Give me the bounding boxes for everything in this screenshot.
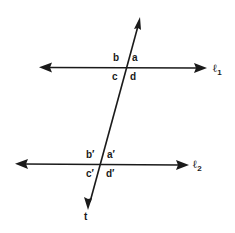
- transversal-t: [84, 17, 141, 210]
- angle-label-c: c: [112, 72, 118, 82]
- angle-label-a: a: [132, 53, 138, 63]
- line-l1: [39, 63, 207, 74]
- arrowhead-down-icon: [84, 197, 92, 210]
- angle-label-a-prime: a′: [107, 150, 115, 160]
- line-label-l2: ℓ2: [192, 159, 202, 174]
- angle-label-d: d: [130, 72, 136, 82]
- arrowhead-up-icon: [134, 17, 141, 30]
- angle-label-c-prime: c′: [86, 169, 94, 179]
- angle-label-b-prime: b′: [86, 150, 95, 160]
- angle-label-d-prime: d′: [106, 169, 115, 179]
- diagram-canvas: b a c d b′ a′ c′ d′ ℓ1 ℓ2 t: [0, 0, 235, 233]
- line-label-l1: ℓ1: [212, 63, 222, 78]
- lines-drawing: [0, 0, 235, 233]
- line-label-t: t: [84, 212, 87, 222]
- angle-label-b: b: [113, 53, 119, 63]
